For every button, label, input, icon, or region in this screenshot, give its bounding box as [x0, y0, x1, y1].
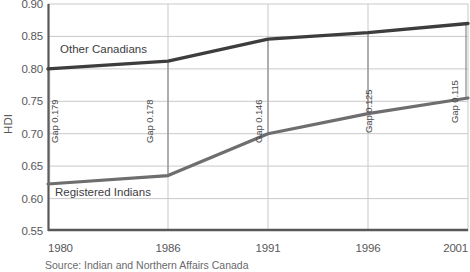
x-tick-label: 1980	[48, 242, 73, 254]
y-tick-label: 0.90	[21, 0, 43, 10]
gap-annotation-1996: Gap 0.125	[363, 90, 374, 133]
y-tick-label: 0.60	[21, 193, 43, 205]
x-tick-label: 1986	[156, 242, 181, 254]
y-tick-label: 0.85	[21, 30, 43, 42]
y-tick-label: 0.65	[21, 160, 43, 172]
gap-annotation-1991: Gap 0.146	[253, 100, 264, 143]
y-tick-label: 0.70	[21, 128, 43, 140]
x-tick-label: 2001	[443, 242, 468, 254]
y-tick-label: 0.55	[21, 225, 43, 237]
y-axis-title: HDI	[2, 114, 14, 134]
series-label-registered-indians: Registered Indians	[55, 186, 151, 198]
gap-annotation-1986: Gap 0.178	[144, 100, 155, 143]
x-tick-label: 1996	[356, 242, 381, 254]
x-tick-label: 1991	[256, 242, 281, 254]
gap-annotation-1980: Gap 0.179	[49, 100, 60, 143]
y-axis-tick-labels: 0.90 0.85 0.80 0.75 0.70 0.65 0.60 0.55	[21, 0, 43, 237]
chart-svg: 0.90 0.85 0.80 0.75 0.70 0.65 0.60 0.55 …	[0, 0, 470, 272]
source-note: Source: Indian and Northern Affairs Cana…	[45, 259, 249, 271]
series-label-other-canadians: Other Canadians	[60, 43, 147, 55]
x-axis-tick-labels: 1980 1986 1991 1996 2001	[48, 242, 468, 254]
hdi-gap-line-chart: 0.90 0.85 0.80 0.75 0.70 0.65 0.60 0.55 …	[0, 0, 470, 272]
y-tick-label: 0.80	[21, 63, 43, 75]
gap-annotation-2001: Gap 0.115	[449, 80, 460, 123]
y-tick-label: 0.75	[21, 95, 43, 107]
